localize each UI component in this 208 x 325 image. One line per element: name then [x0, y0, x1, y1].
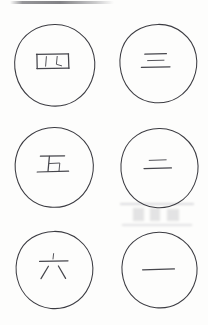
circle-character-value: 一 — [118, 310, 119, 311]
circle-character-value: 四 — [10, 110, 11, 111]
hand-drawn-circle-outline — [15, 25, 95, 107]
circle-cell-4: 二 — [117, 126, 201, 210]
circle-cell-2: 三 — [116, 22, 200, 106]
circle-cell-1: 四 — [10, 22, 98, 110]
numeral-glyph-two — [144, 160, 171, 169]
hand-drawn-circle-outline — [120, 24, 197, 102]
hand-drawn-circle-outline — [15, 127, 93, 207]
numeral-glyph-six — [40, 254, 68, 279]
circle-character-value: 六 — [12, 311, 13, 312]
hand-drawn-circle-outline — [122, 232, 197, 308]
circle-cell-3: 五 — [11, 125, 97, 211]
numeral-glyph-three — [141, 54, 170, 68]
circle-cell-6: 一 — [118, 230, 200, 310]
ghost-mark-e — [122, 224, 192, 226]
hand-drawn-circle-outline — [16, 231, 93, 308]
circle-character-value: 五 — [11, 211, 12, 212]
circle-cell-5: 六 — [12, 229, 96, 311]
worksheet-sheet: 四 三 五 — [0, 0, 208, 325]
circle-character-value: 三 — [116, 106, 117, 107]
numeral-glyph-five — [37, 156, 68, 172]
numeral-glyph-one — [143, 269, 175, 270]
circle-character-value: 二 — [117, 210, 118, 211]
numeral-glyph-four — [37, 54, 70, 69]
ghost-mark-c — [167, 209, 179, 221]
